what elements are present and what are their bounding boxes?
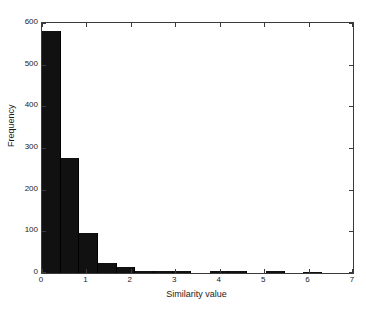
y-tick-mark xyxy=(349,65,353,66)
x-tick-mark xyxy=(309,269,310,273)
histogram-bar xyxy=(117,267,136,273)
x-tick-label: 7 xyxy=(337,276,366,284)
y-tick-mark xyxy=(42,106,46,107)
x-tick-label: 6 xyxy=(293,276,323,284)
y-tick-mark xyxy=(349,190,353,191)
histogram-bar xyxy=(42,31,61,273)
y-tick-mark xyxy=(42,65,46,66)
x-tick-mark xyxy=(175,269,176,273)
y-tick-label: 300 xyxy=(25,143,38,151)
y-tick-mark xyxy=(349,231,353,232)
x-axis-tick-labels: 01234567 xyxy=(0,276,366,288)
y-tick-label: 200 xyxy=(25,185,38,193)
x-tick-mark xyxy=(264,269,265,273)
y-tick-mark xyxy=(42,231,46,232)
histogram-bar xyxy=(266,271,285,273)
x-tick-label: 3 xyxy=(159,276,189,284)
y-axis-label: Frequency xyxy=(6,104,16,147)
plot-area xyxy=(41,22,354,274)
histogram-bar xyxy=(303,272,322,273)
x-tick-mark xyxy=(309,23,310,27)
x-tick-mark xyxy=(131,269,132,273)
y-tick-mark xyxy=(349,106,353,107)
x-tick-label: 5 xyxy=(248,276,278,284)
y-tick-mark xyxy=(42,148,46,149)
x-axis-label: Similarity value xyxy=(41,289,352,299)
x-tick-mark xyxy=(352,269,353,273)
x-tick-label: 2 xyxy=(115,276,145,284)
histogram-bars xyxy=(42,23,353,273)
x-tick-label: 4 xyxy=(204,276,234,284)
x-tick-mark xyxy=(86,23,87,27)
x-tick-label: 1 xyxy=(70,276,100,284)
x-tick-mark xyxy=(86,269,87,273)
x-tick-mark xyxy=(131,23,132,27)
x-tick-mark xyxy=(264,23,265,27)
y-axis-tick-labels: 0100200300400500600 xyxy=(0,0,38,313)
x-tick-mark xyxy=(175,23,176,27)
x-tick-mark xyxy=(220,23,221,27)
y-tick-label: 0 xyxy=(34,268,38,276)
histogram-bar xyxy=(61,158,80,273)
y-tick-mark xyxy=(349,148,353,149)
y-tick-mark xyxy=(42,190,46,191)
y-tick-label: 100 xyxy=(25,226,38,234)
x-tick-mark xyxy=(42,269,43,273)
x-tick-mark xyxy=(42,23,43,27)
histogram-bar xyxy=(154,271,173,273)
y-tick-label: 500 xyxy=(25,60,38,68)
histogram-bar xyxy=(135,271,154,274)
x-tick-mark xyxy=(352,23,353,27)
histogram-bar xyxy=(98,263,117,273)
y-tick-label: 400 xyxy=(25,101,38,109)
x-tick-label: 0 xyxy=(26,276,56,284)
y-tick-label: 600 xyxy=(25,18,38,26)
histogram-bar xyxy=(79,233,98,273)
histogram-bar xyxy=(229,271,248,273)
histogram-figure: 0100200300400500600 Frequency 01234567 S… xyxy=(0,0,366,313)
x-tick-mark xyxy=(220,269,221,273)
